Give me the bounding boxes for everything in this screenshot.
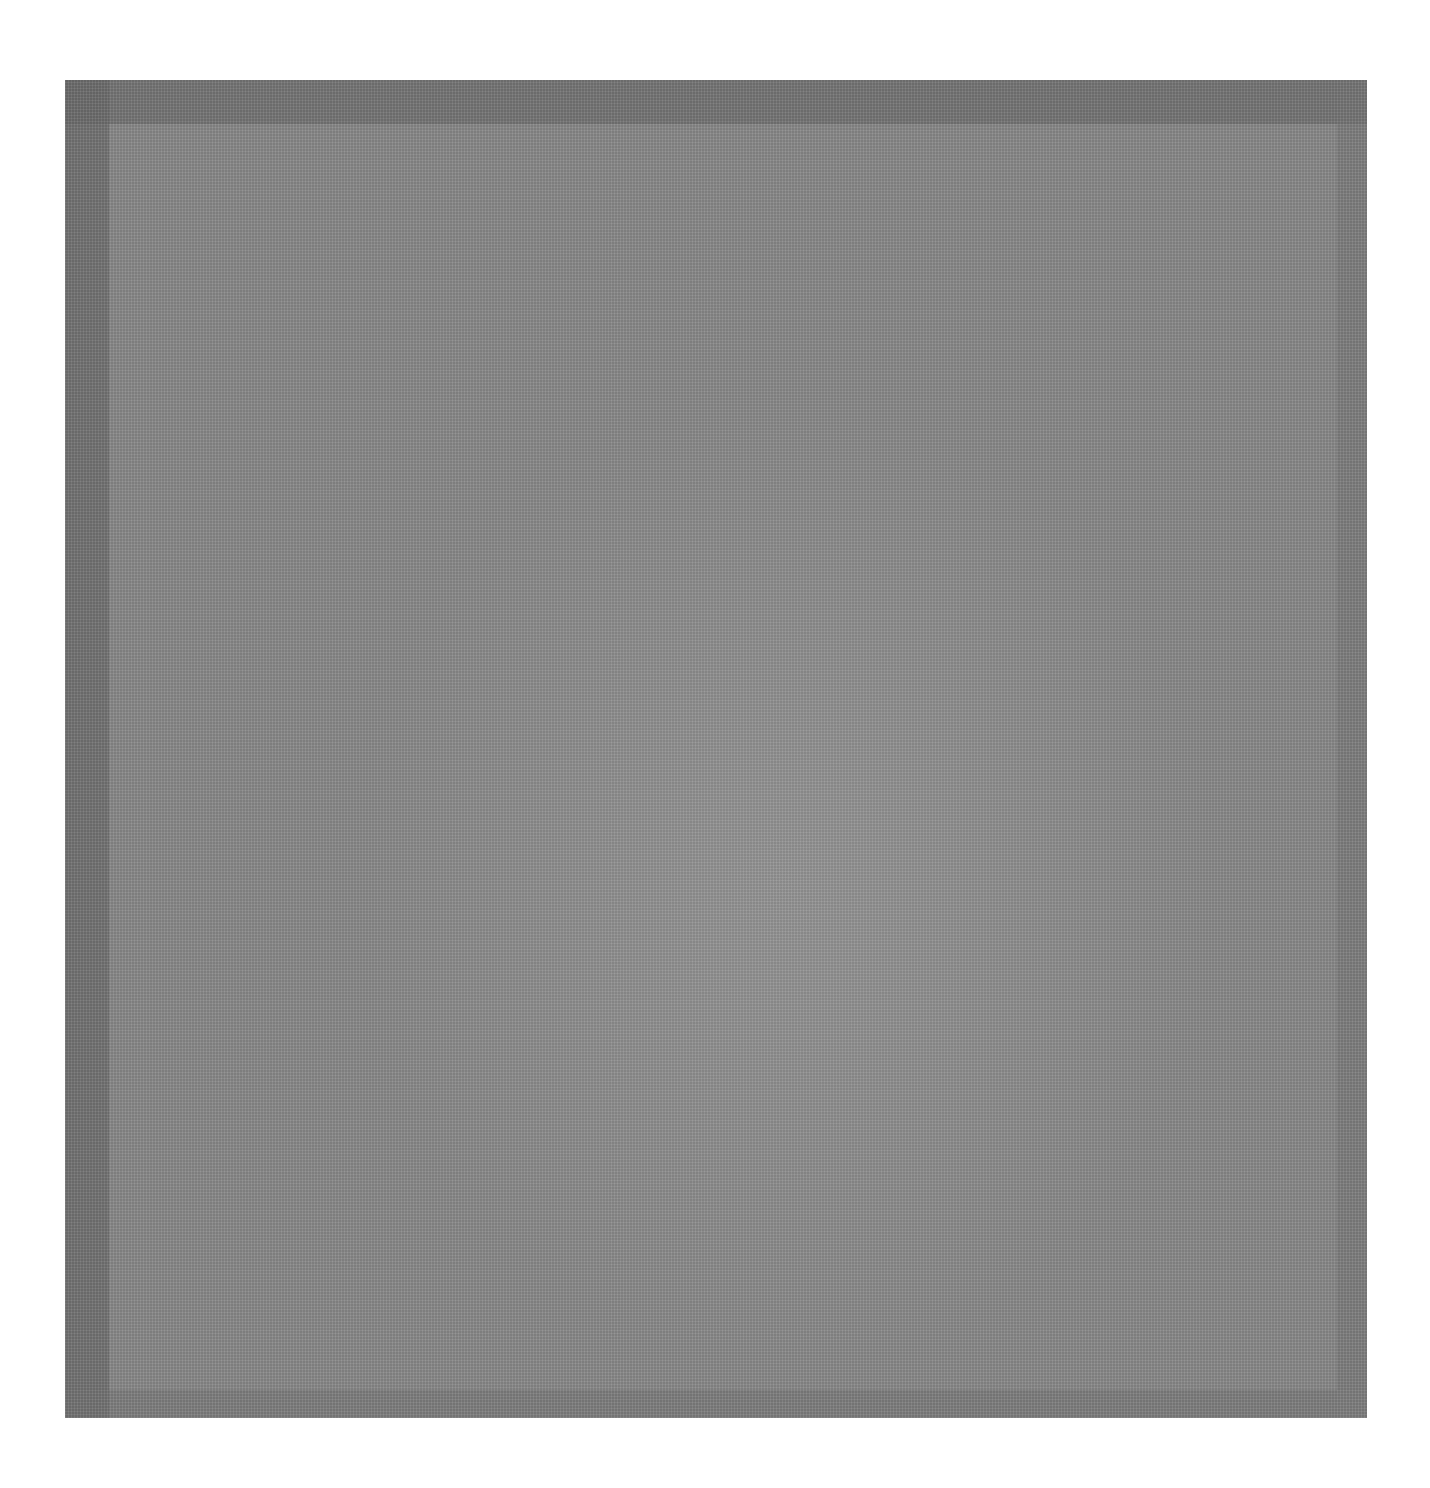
fabric-texture xyxy=(65,80,1367,1418)
gray-fabric-swatch xyxy=(65,80,1367,1418)
